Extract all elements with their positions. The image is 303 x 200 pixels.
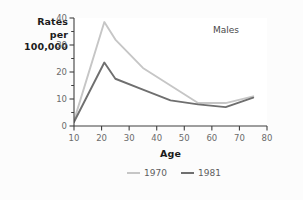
x-tick-label: 40 bbox=[151, 133, 162, 143]
legend-swatch-1981 bbox=[181, 172, 194, 174]
legend-entry-1981[interactable]: 1981 bbox=[181, 168, 221, 178]
legend-label-1981: 1981 bbox=[198, 168, 221, 178]
x-tick-label: 50 bbox=[179, 133, 190, 143]
x-tick-label: 70 bbox=[234, 133, 245, 143]
y-tick-label: 40 bbox=[56, 13, 67, 23]
y-tick-label: 0 bbox=[62, 121, 67, 131]
x-tick-label: 10 bbox=[69, 133, 80, 143]
x-tick-label: 20 bbox=[96, 133, 107, 143]
legend-entry-1970[interactable]: 1970 bbox=[127, 168, 167, 178]
series-group-annotation: Males bbox=[213, 25, 239, 35]
chart-figure: Rates per 100,000 0102030401020304050607… bbox=[0, 0, 303, 200]
x-tick-label: 80 bbox=[262, 133, 273, 143]
y-tick-label: 20 bbox=[56, 67, 67, 77]
legend-swatch-1970 bbox=[127, 172, 140, 174]
x-tick-label: 60 bbox=[206, 133, 217, 143]
y-tick-label: 30 bbox=[56, 40, 67, 50]
legend-label-1970: 1970 bbox=[144, 168, 167, 178]
x-tick-label: 30 bbox=[124, 133, 135, 143]
x-axis-title: Age bbox=[74, 148, 267, 159]
y-tick-label: 10 bbox=[56, 94, 67, 104]
chart-legend: 19701981 bbox=[74, 168, 274, 178]
